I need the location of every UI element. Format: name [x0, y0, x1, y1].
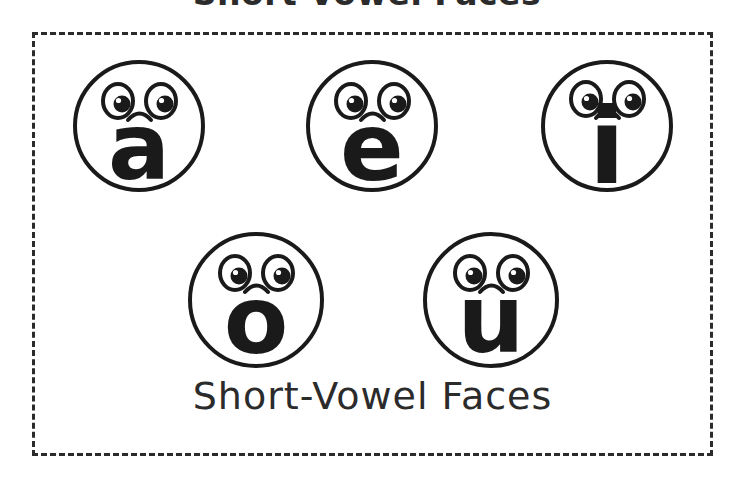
vowel-letter-a: a [108, 94, 170, 201]
vowel-face-o[interactable]: o [185, 226, 327, 374]
page-title: Short-Vowel Faces [0, 0, 734, 13]
vowel-face-e[interactable]: e [305, 54, 439, 198]
vowel-faces-group: a e [32, 32, 713, 456]
vowel-face-i[interactable]: i [540, 54, 674, 198]
vowel-letter-i: i [589, 85, 625, 208]
vowel-letter-o: o [224, 266, 289, 375]
worksheet-page: Short-Vowel Faces [0, 0, 734, 478]
vowel-letter-u: u [458, 265, 525, 374]
worksheet-caption: Short-Vowel Faces [32, 374, 713, 418]
vowel-letter-e: e [340, 93, 404, 202]
vowel-face-a[interactable]: a [72, 54, 206, 198]
vowel-face-u[interactable]: u [420, 226, 562, 374]
